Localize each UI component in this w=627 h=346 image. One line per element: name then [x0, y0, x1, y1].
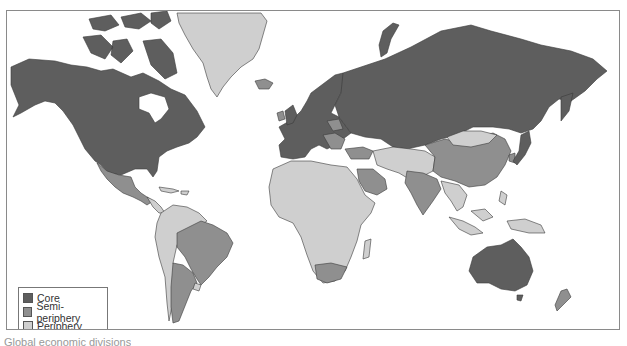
region-north-america [11, 59, 205, 177]
region-south-africa [315, 263, 347, 283]
region-arctic-islands [83, 11, 177, 79]
world-map [7, 11, 619, 329]
region-iceland [255, 79, 273, 89]
semi-periphery-swatch-icon [23, 307, 32, 317]
region-turkey [345, 147, 373, 159]
region-central-america [147, 197, 165, 213]
periphery-swatch-icon [23, 321, 33, 330]
region-ireland [277, 111, 285, 121]
region-australia [469, 239, 533, 291]
map-caption: Global economic divisions [4, 336, 131, 346]
region-russia [335, 25, 607, 149]
region-kamchatka [561, 93, 573, 121]
region-greenland [177, 13, 267, 97]
region-japan [513, 131, 531, 165]
region-tasmania [517, 295, 523, 301]
map-legend: Core Semi-periphery Periphery [18, 287, 108, 330]
region-india [405, 171, 441, 215]
legend-label-periphery: Periphery [37, 320, 82, 330]
legend-item-semi-periphery: Semi-periphery [23, 305, 103, 319]
region-caribbean [159, 187, 189, 195]
region-new-zealand [555, 289, 571, 311]
region-novaya-zemlya [379, 23, 399, 57]
region-madagascar [363, 239, 371, 259]
region-southeast-asia [441, 181, 545, 235]
core-swatch-icon [23, 293, 33, 303]
map-frame: Core Semi-periphery Periphery [6, 10, 620, 330]
